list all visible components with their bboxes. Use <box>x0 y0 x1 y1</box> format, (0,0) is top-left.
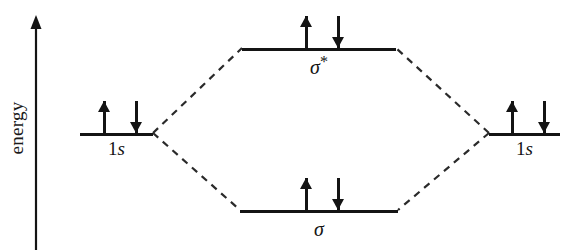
level-label-antibonding: σ* <box>242 53 396 79</box>
electron-up-arrow-icon <box>98 101 111 133</box>
label-sigma-symbol: σ <box>310 56 320 78</box>
energy-axis-label: energy <box>6 88 28 168</box>
electron-up-arrow-icon <box>506 101 519 133</box>
level-label-right-atomic: 1s <box>489 138 560 160</box>
mo-diagram: energy 1s σ* σ <box>0 0 576 252</box>
label-principal-number: 1 <box>108 138 118 159</box>
electrons-left-atomic <box>98 101 143 133</box>
label-sigma-symbol: σ <box>314 218 324 240</box>
label-antibonding-star: * <box>320 53 328 70</box>
electron-down-arrow-icon <box>332 178 345 210</box>
level-label-bonding: σ <box>240 215 398 241</box>
level-label-left-atomic: 1s <box>80 138 153 160</box>
electrons-antibonding <box>300 16 345 48</box>
electrons-right-atomic <box>506 101 551 133</box>
electron-down-arrow-icon <box>332 16 345 48</box>
label-principal-number: 1 <box>516 138 526 159</box>
level-line-right-atomic <box>489 133 560 136</box>
electron-down-arrow-icon <box>130 101 143 133</box>
label-orbital-letter: s <box>526 138 533 159</box>
level-line-antibonding <box>242 48 396 51</box>
level-line-bonding <box>240 210 398 213</box>
label-orbital-letter: s <box>118 138 125 159</box>
level-line-left-atomic <box>80 133 153 136</box>
electron-up-arrow-icon <box>300 16 313 48</box>
electron-down-arrow-icon <box>538 101 551 133</box>
electrons-bonding <box>300 178 345 210</box>
electron-up-arrow-icon <box>300 178 313 210</box>
